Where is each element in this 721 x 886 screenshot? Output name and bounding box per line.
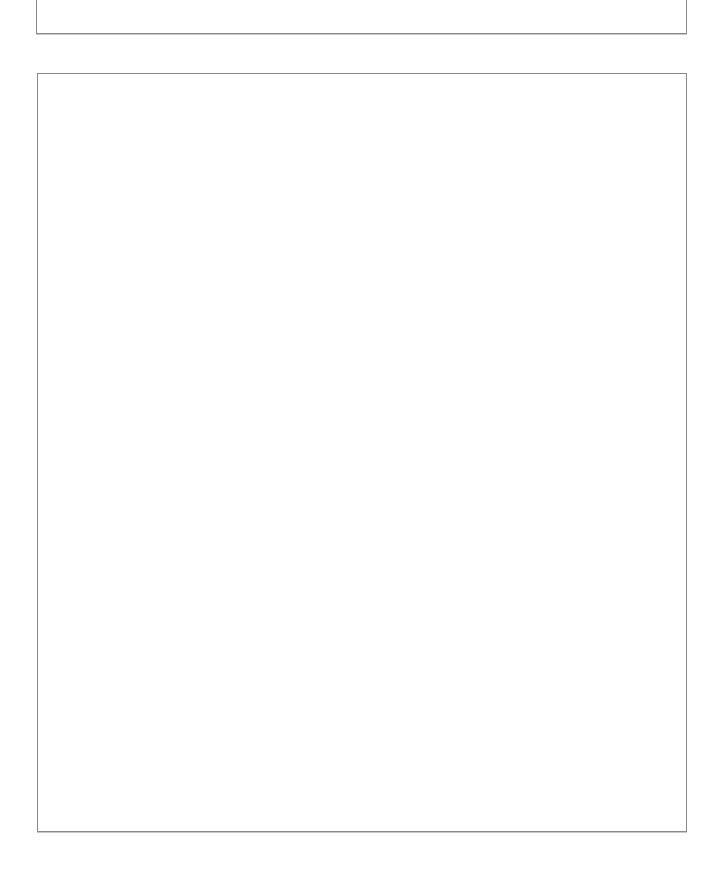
- header-box: DISCRIMINATION: [36, 0, 687, 34]
- content-box: [37, 73, 687, 832]
- page-title: DISCRIMINATION: [99, 0, 411, 5]
